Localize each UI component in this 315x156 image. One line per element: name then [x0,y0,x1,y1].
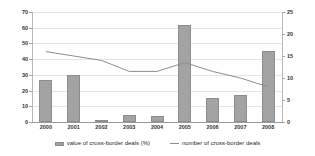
bar-2006 [206,98,219,122]
bar-swatch-icon [55,142,64,146]
bar-2008 [262,51,275,122]
left-tick-50: 50 [6,40,28,46]
left-tickmark [29,12,32,13]
x-label-2002: 2002 [88,124,114,131]
x-label-2006: 2006 [200,124,226,131]
right-tick-0: 0 [287,119,309,125]
left-tickmark [29,43,32,44]
right-tickmark [282,34,285,35]
right-tick-25: 25 [287,9,309,15]
left-tick-40: 40 [6,56,28,62]
left-tick-70: 70 [6,9,28,15]
left-tickmark [29,91,32,92]
left-tick-30: 30 [6,72,28,78]
right-tick-20: 20 [287,31,309,37]
right-tickmark [282,78,285,79]
left-tick-20: 20 [6,88,28,94]
right-tickmark [282,12,285,13]
right-tickmark [282,122,285,123]
chart-legend: value of cross-border deals (%) number o… [0,140,315,147]
bar-2003 [123,115,136,122]
left-tickmark [29,106,32,107]
right-tickmark [282,100,285,101]
left-tickmark [29,122,32,123]
legend-item-number-of-cross-border-deals: number of cross-border deals [170,140,260,147]
right-axis [282,12,283,122]
x-label-2001: 2001 [61,124,87,131]
x-label-2004: 2004 [144,124,170,131]
x-axis-category-labels: 200020012002200320042005200620072008 [32,124,282,134]
left-axis [32,12,33,122]
bar-2000 [39,80,52,122]
x-label-2008: 2008 [255,124,281,131]
right-tick-5: 5 [287,97,309,103]
right-tick-10: 10 [287,75,309,81]
x-label-2007: 2007 [227,124,253,131]
left-tickmark [29,28,32,29]
legend-item-value-of-cross-border-deals: value of cross-border deals (%) [55,140,150,147]
x-label-2005: 2005 [172,124,198,131]
legend-label-value: value of cross-border deals (%) [67,140,150,147]
bar-2005 [178,25,191,122]
right-tickmark [282,56,285,57]
bottom-axis [32,122,282,123]
bar-2007 [234,95,247,122]
x-label-2000: 2000 [33,124,59,131]
right-tick-15: 15 [287,53,309,59]
x-label-2003: 2003 [116,124,142,131]
chart-container: 010203040506070 0510152025 2000200120022… [0,0,315,156]
left-tickmark [29,75,32,76]
legend-label-number: number of cross-border deals [182,140,260,147]
left-tickmark [29,59,32,60]
left-tick-10: 10 [6,103,28,109]
line-swatch-icon [170,143,179,144]
plot-area: 010203040506070 0510152025 [32,12,282,122]
bar-2001 [67,75,80,122]
bar-series-value-of-cross-border-deals [32,12,282,122]
left-tick-0: 0 [6,119,28,125]
left-tick-60: 60 [6,25,28,31]
